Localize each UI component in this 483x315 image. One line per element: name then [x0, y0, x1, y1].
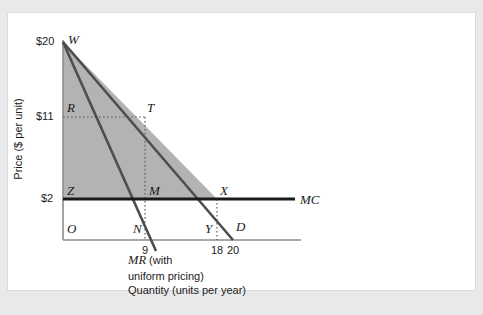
- x-axis-title: Quantity (units per year): [128, 285, 246, 296]
- x-tick-20: 20: [223, 245, 243, 256]
- point-label-T: T: [147, 101, 154, 114]
- point-label-D: D: [236, 220, 245, 233]
- economics-diagram: [0, 0, 483, 315]
- mr-curve-label-rest: (with: [146, 254, 172, 266]
- mr-curve-label-italic: MR: [128, 253, 146, 267]
- y-tick-11: $11: [36, 111, 54, 122]
- y-tick-20: $20: [36, 36, 54, 47]
- point-label-W: W: [68, 33, 79, 46]
- y-tick-2: $2: [41, 193, 53, 204]
- mr-curve-label-line2: uniform pricing): [128, 269, 204, 284]
- point-label-X: X: [220, 184, 228, 197]
- mc-curve-label: MC: [300, 193, 320, 206]
- point-label-M: M: [149, 184, 160, 197]
- figure-page: $20 $11 $2 9 18 20 W R T Z M X O N Y D M…: [0, 0, 483, 315]
- point-label-Y: Y: [205, 222, 212, 235]
- mr-curve-label: MR (with uniform pricing): [128, 252, 204, 284]
- y-axis-title: Price ($ per unit): [12, 84, 24, 194]
- shaded-surplus-region: [63, 42, 217, 199]
- point-label-O: O: [67, 222, 76, 235]
- point-label-R: R: [67, 101, 75, 114]
- point-label-Z: Z: [67, 184, 74, 197]
- point-label-N: N: [133, 222, 142, 235]
